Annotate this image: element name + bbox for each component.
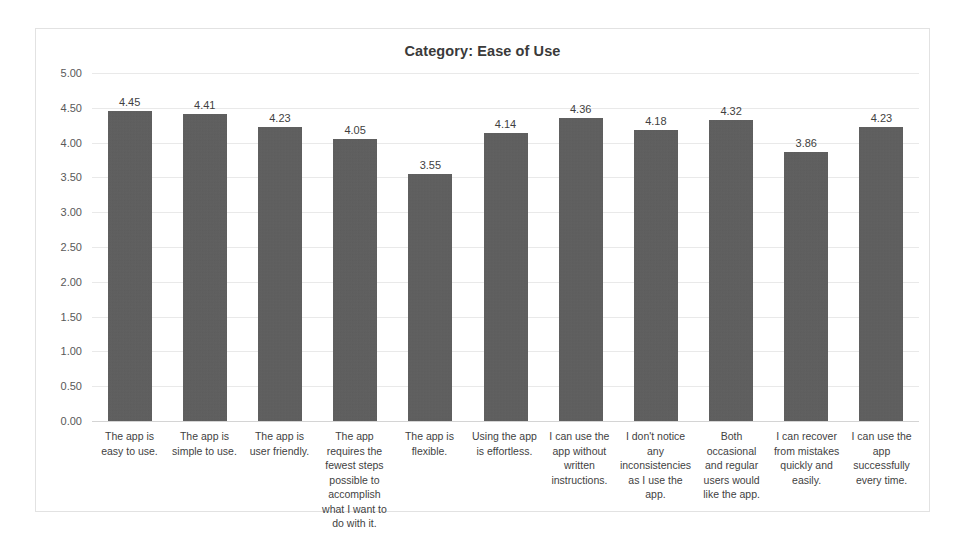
x-axis-category-labels: The app is easy to use.The app is simple… (92, 425, 919, 531)
bar-value-label: 4.18 (618, 115, 693, 127)
x-axis-category-label: I can recover from mistakes quickly and … (769, 425, 844, 487)
bar-slot: 3.55 (393, 73, 468, 421)
y-axis-tick-label: 3.00 (61, 206, 82, 218)
bar-value-label: 4.23 (844, 112, 919, 124)
x-axis-category-label: I can use the app without written instru… (542, 425, 617, 487)
bar[interactable] (709, 120, 753, 421)
bar-slot: 4.45 (92, 73, 167, 421)
bar-value-label: 4.41 (167, 99, 242, 111)
bar-slot: 4.23 (844, 73, 919, 421)
x-axis-category-label: Both occasional and regular users would … (694, 425, 769, 502)
bar-value-label: 3.86 (769, 137, 844, 149)
bar-slot: 4.23 (242, 73, 317, 421)
y-axis-tick-label: 0.50 (61, 380, 82, 392)
bar-slot: 4.18 (618, 73, 693, 421)
bar[interactable] (258, 127, 302, 421)
bar[interactable] (559, 118, 603, 421)
y-axis-tick-label: 2.50 (61, 241, 82, 253)
x-axis-category-label: The app is simple to use. (167, 425, 242, 458)
y-axis-tick-label: 4.50 (61, 102, 82, 114)
bar-slot: 4.32 (694, 73, 769, 421)
bar-slot: 4.14 (468, 73, 543, 421)
bar[interactable] (484, 133, 528, 421)
bar[interactable] (408, 174, 452, 421)
chart-frame: Category: Ease of Use 5.004.504.003.503.… (35, 28, 930, 512)
y-axis-tick-label: 1.00 (61, 345, 82, 357)
bar-slot: 4.41 (167, 73, 242, 421)
bar-series: 4.454.414.234.053.554.144.364.184.323.86… (92, 73, 919, 421)
x-axis-category-label: The app requires the fewest steps possib… (317, 425, 392, 531)
bar-slot: 4.36 (543, 73, 618, 421)
x-axis-category-label: Using the app is effortless. (467, 425, 542, 458)
axis-baseline (92, 421, 919, 422)
plot-wrapper: 5.004.504.003.503.002.502.001.501.000.50… (36, 73, 931, 513)
x-axis-category-label: I can use the app successfully every tim… (844, 425, 919, 487)
bar[interactable] (333, 139, 377, 421)
bar[interactable] (183, 114, 227, 421)
bar-slot: 3.86 (769, 73, 844, 421)
y-axis-tick-label: 4.00 (61, 137, 82, 149)
x-axis-category-label: The app is easy to use. (92, 425, 167, 458)
bar-value-label: 4.05 (318, 124, 393, 136)
bar-value-label: 4.36 (543, 103, 618, 115)
bar[interactable] (784, 152, 828, 421)
bar[interactable] (859, 127, 903, 421)
bar-value-label: 4.23 (242, 112, 317, 124)
chart-title: Category: Ease of Use (36, 43, 929, 59)
y-axis-tick-label: 5.00 (61, 67, 82, 79)
bar-slot: 4.05 (318, 73, 393, 421)
bar[interactable] (108, 111, 152, 421)
bar-value-label: 3.55 (393, 159, 468, 171)
y-axis: 5.004.504.003.503.002.502.001.501.000.50… (36, 73, 88, 421)
x-axis-category-label: The app is flexible. (392, 425, 467, 458)
y-axis-tick-label: 2.00 (61, 276, 82, 288)
y-axis-tick-label: 3.50 (61, 171, 82, 183)
y-axis-tick-label: 1.50 (61, 311, 82, 323)
x-axis-category-label: The app is user friendly. (242, 425, 317, 458)
bar[interactable] (634, 130, 678, 421)
bar-value-label: 4.32 (694, 105, 769, 117)
x-axis-category-label: I don't notice any inconsistencies as I … (617, 425, 694, 502)
bar-value-label: 4.45 (92, 96, 167, 108)
plot-area: 4.454.414.234.053.554.144.364.184.323.86… (92, 73, 919, 421)
bar-value-label: 4.14 (468, 118, 543, 130)
y-axis-tick-label: 0.00 (61, 415, 82, 427)
